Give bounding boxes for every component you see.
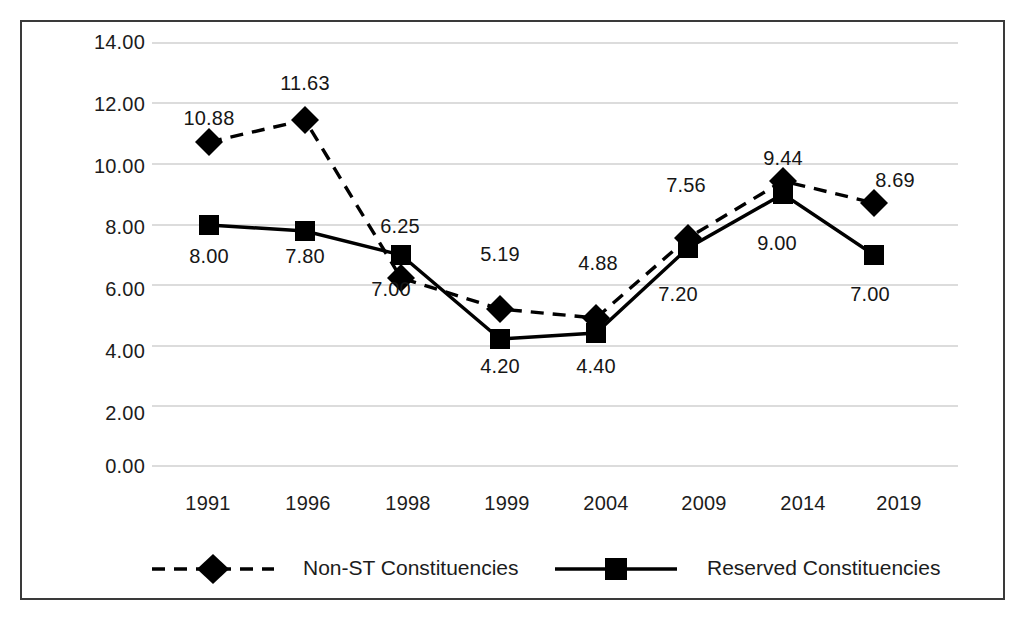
x-tick-label-1996: 1996 <box>258 492 358 515</box>
y-tick-label-3: 8.00 <box>50 216 145 239</box>
y-tick-label-0: 14.00 <box>50 31 145 54</box>
legend-swatch-reserved-constituencies <box>553 552 679 586</box>
data-label-reserved-2019: 7.00 <box>820 283 920 306</box>
x-tick-label-2019: 2019 <box>849 492 949 515</box>
legend-label-reserved-constituencies: Reserved Constituencies <box>707 556 940 580</box>
y-tick-label-1: 12.00 <box>50 93 145 116</box>
legend-swatch-non-st-constituencies <box>150 552 276 586</box>
x-tick-label-2009: 2009 <box>654 492 754 515</box>
y-tick-label-4: 6.00 <box>50 278 145 301</box>
y-tick-label-7: 0.00 <box>50 455 145 478</box>
data-label-non-st-1998: 6.25 <box>350 215 450 238</box>
y-tick-label-5: 4.00 <box>50 340 145 363</box>
data-label-non-st-1999: 5.19 <box>450 243 550 266</box>
data-label-non-st-2014: 9.44 <box>733 147 833 170</box>
data-label-reserved-1998: 7.00 <box>341 278 441 301</box>
data-label-reserved-2014: 9.00 <box>727 232 827 255</box>
chart-page: 14.00 12.00 10.00 8.00 6.00 4.00 2.00 0.… <box>0 0 1023 622</box>
x-tick-label-1991: 1991 <box>158 492 258 515</box>
data-label-non-st-2019: 8.69 <box>845 169 945 192</box>
data-label-reserved-2009: 7.20 <box>628 283 728 306</box>
data-label-non-st-2004: 4.88 <box>548 252 648 275</box>
data-label-reserved-1991: 8.00 <box>159 245 259 268</box>
legend-label-non-st-constituencies: Non-ST Constituencies <box>303 556 519 580</box>
y-tick-label-2: 10.00 <box>50 155 145 178</box>
x-tick-label-1998: 1998 <box>358 492 458 515</box>
y-tick-label-6: 2.00 <box>50 402 145 425</box>
x-tick-label-2014: 2014 <box>753 492 853 515</box>
data-label-reserved-1999: 4.20 <box>450 355 550 378</box>
data-label-reserved-1996: 7.80 <box>255 245 355 268</box>
x-tick-label-1999: 1999 <box>457 492 557 515</box>
data-label-non-st-1991: 10.88 <box>159 107 259 130</box>
data-label-reserved-2004: 4.40 <box>546 355 646 378</box>
data-label-non-st-1996: 11.63 <box>255 72 355 95</box>
x-tick-label-2004: 2004 <box>556 492 656 515</box>
data-label-non-st-2009: 7.56 <box>636 174 736 197</box>
